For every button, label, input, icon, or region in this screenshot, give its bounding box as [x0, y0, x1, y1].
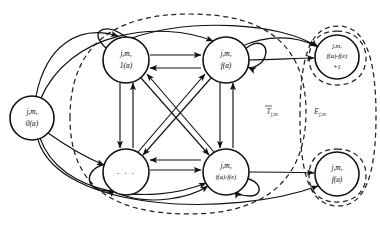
- node-state-fa-line1: j,m,: [219, 49, 231, 58]
- node-state-1a[interactable]: j,m, 1(a): [103, 37, 149, 83]
- node-state-fa-terminal-line1: j,m,: [330, 163, 342, 172]
- node-state-0a-line1: j,m,: [25, 107, 37, 116]
- svg-text:Tj,m: Tj,m: [266, 107, 278, 117]
- node-state-fa-minus-fe-plus-1-line1: j,m,: [331, 42, 342, 49]
- node-state-fa-minus-fe-plus-1[interactable]: j,m, f(a)-f(e) +1: [315, 35, 359, 79]
- node-state-1a-line2: 1(a): [120, 61, 133, 70]
- node-state-1a-line1: j,m,: [119, 49, 131, 58]
- node-state-fa-line2: f(a): [221, 61, 232, 70]
- node-state-ellipsis[interactable]: · · ·: [103, 149, 149, 195]
- node-state-0a-line2: 0(a): [26, 119, 39, 128]
- region-labels: Tj,m Ej,m: [265, 106, 326, 117]
- edge-1a-to-fafe-diag: [141, 78, 209, 155]
- edge-0a-to-ellipsis: [48, 133, 104, 165]
- node-state-fa-minus-fe[interactable]: j,m, f(a)-f(e): [203, 149, 249, 195]
- edge-fafe-to-fa-terminal: [249, 172, 314, 173]
- region-label-e-sub: j,m: [318, 111, 326, 117]
- node-state-fa-terminal-line2: f(a): [332, 175, 343, 184]
- region-label-tbar: Tj,m: [265, 106, 278, 117]
- node-state-fa[interactable]: j,m, f(a): [203, 37, 249, 83]
- node-state-0a[interactable]: j,m, 0(a): [10, 96, 54, 140]
- svg-text:Ej,m: Ej,m: [313, 107, 326, 117]
- node-state-fa-terminal[interactable]: j,m, f(a): [315, 152, 359, 196]
- node-state-fa-minus-fe-circle[interactable]: [203, 149, 249, 195]
- node-state-fa-minus-fe-line2: f(a)-f(e): [216, 173, 237, 181]
- edge-fa-to-ellipsis-diag: [143, 78, 211, 155]
- diagram-canvas: j,m, 0(a) j,m, 1(a) j,m, f(a) · · ·: [0, 0, 380, 231]
- region-label-e: Ej,m: [313, 107, 326, 117]
- node-state-fa-minus-fe-line1: j,m,: [219, 161, 231, 170]
- region-label-tbar-sub: j,m: [270, 111, 278, 117]
- edge-fafe-to-fafe1: [246, 58, 314, 60]
- state-transition-diagram: j,m, 0(a) j,m, 1(a) j,m, f(a) · · ·: [0, 0, 380, 231]
- node-state-fa-minus-fe-plus-1-line3: +1: [333, 63, 341, 70]
- node-state-fa-minus-fe-plus-1-line2: f(a)-f(e): [327, 52, 348, 60]
- node-state-ellipsis-label: · · ·: [117, 168, 136, 178]
